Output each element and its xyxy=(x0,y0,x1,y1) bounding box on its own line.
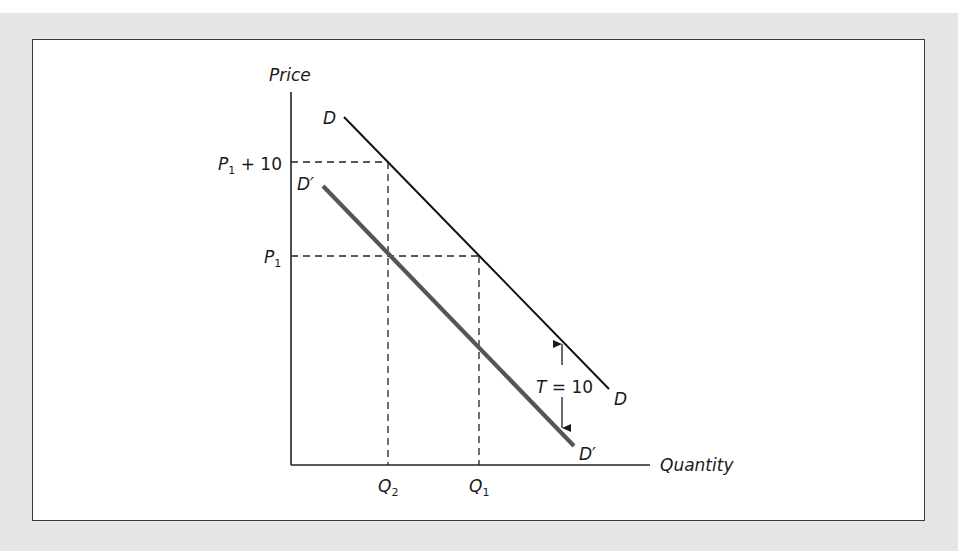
label-d-prime-end: D′ xyxy=(579,444,596,464)
reference-lines xyxy=(291,162,479,465)
label-d-end: D xyxy=(614,389,627,409)
y-tick-p1-plus-10: P1 + 10 xyxy=(218,154,282,177)
label-d-prime-start: D′ xyxy=(297,174,314,194)
label-d-start: D xyxy=(323,108,336,128)
y-axis-label: Price xyxy=(269,65,311,85)
x-tick-q2: Q2 xyxy=(378,476,398,499)
x-axis-label: Quantity xyxy=(660,455,734,475)
demand-curve-d xyxy=(344,117,609,389)
x-tick-q1: Q1 xyxy=(469,476,489,499)
tax-demand-chart: Price Quantity D D D′ D′ P1 + 10 P1 Q2 Q… xyxy=(0,0,970,551)
tax-annotation: T = 10 xyxy=(536,377,593,397)
y-tick-p1: P1 xyxy=(264,247,281,270)
